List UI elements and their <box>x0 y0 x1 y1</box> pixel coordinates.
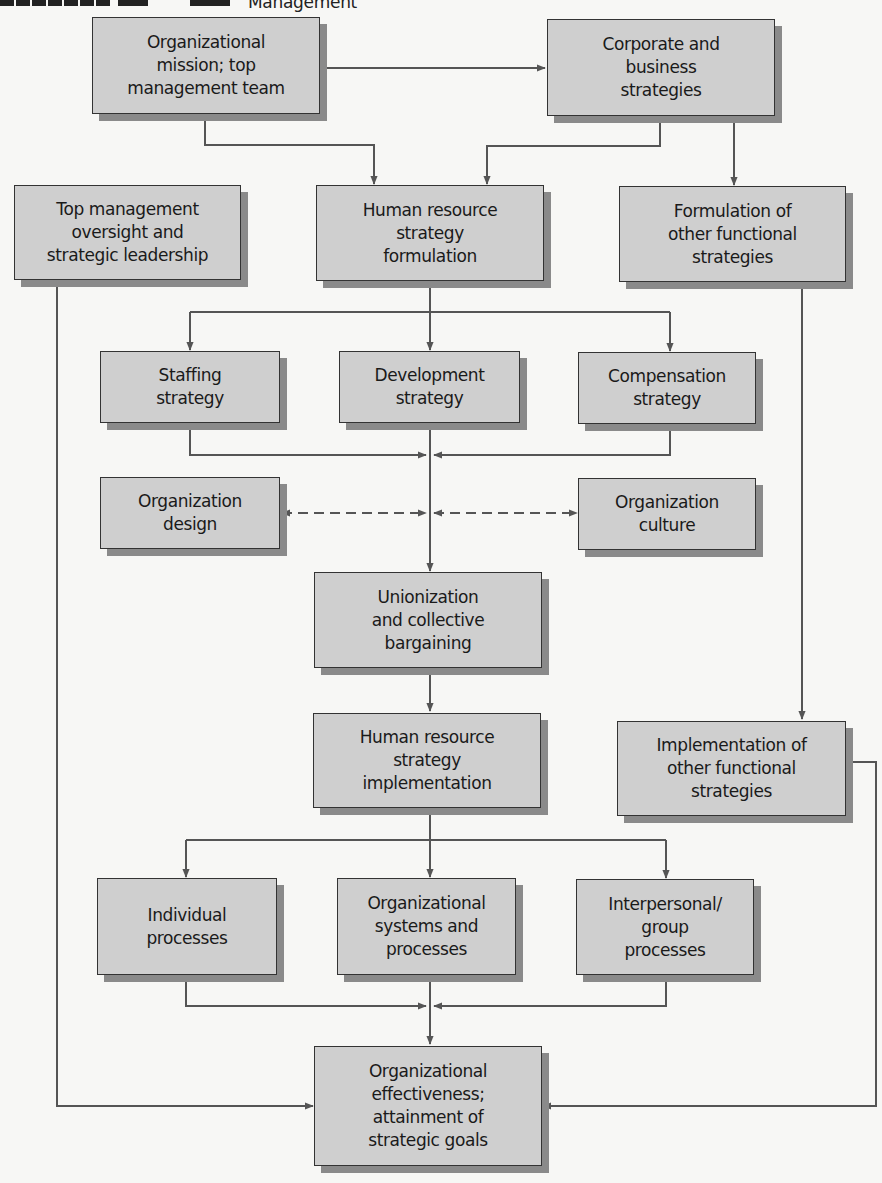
node-hr-implementation: Human resource strategy implementation <box>313 713 541 808</box>
node-mission: Organizational mission; top management t… <box>92 17 320 114</box>
node-unionization: Unionization and collective bargaining <box>314 572 542 668</box>
node-organization-design: Organization design <box>100 477 280 549</box>
node-corporate-strategies: Corporate and business strategies <box>547 19 775 116</box>
node-hr-formulation: Human resource strategy formulation <box>316 185 544 281</box>
node-compensation-strategy: Compensation strategy <box>578 352 756 424</box>
node-interpersonal-processes: Interpersonal/ group processes <box>576 879 754 975</box>
node-other-implementation: Implementation of other functional strat… <box>617 721 846 816</box>
node-organizational-systems: Organizational systems and processes <box>337 878 516 975</box>
node-other-formulation: Formulation of other functional strategi… <box>619 186 846 282</box>
node-top-management-oversight: Top management oversight and strategic l… <box>14 185 241 280</box>
node-staffing-strategy: Staffing strategy <box>100 351 280 423</box>
node-organization-culture: Organization culture <box>578 478 756 550</box>
node-individual-processes: Individual processes <box>97 878 277 975</box>
node-development-strategy: Development strategy <box>339 351 520 423</box>
node-organizational-effectiveness: Organizational effectiveness; attainment… <box>314 1046 542 1166</box>
